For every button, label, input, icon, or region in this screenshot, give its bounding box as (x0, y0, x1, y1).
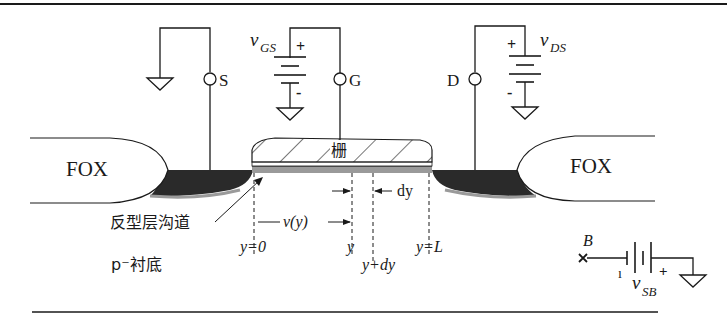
gate-terminal: + - v GS G (250, 28, 361, 145)
ground-icon (680, 275, 706, 287)
terminal-node-icon (334, 73, 346, 85)
fox-right-label: FOX (570, 154, 612, 178)
mosfet-diagram: S + - v GS G + - v DS D (0, 0, 727, 327)
y0-label: y=0 (238, 238, 266, 256)
vy-label: v(y) (283, 213, 308, 231)
channel-label: 反型层沟道 (110, 213, 190, 232)
terminal-node-icon (469, 73, 481, 85)
fox-left: FOX (30, 138, 168, 203)
vsb-symbol: v (632, 272, 641, 293)
terminal-node-icon (204, 73, 216, 85)
ground-icon (277, 108, 303, 120)
inversion-channel (252, 166, 432, 173)
gate-region-label: 栅 (331, 141, 347, 160)
vsb-subscript: SB (642, 284, 657, 299)
y-label: y (345, 238, 355, 256)
drain-label: D (447, 71, 459, 90)
body-terminal: B ı + v SB (579, 232, 706, 299)
ground-icon (512, 107, 538, 119)
vds-subscript: DS (549, 40, 566, 55)
fox-right: FOX (517, 136, 655, 201)
source-label: S (219, 71, 228, 90)
vds-minus: - (507, 84, 512, 101)
vgs-subscript: GS (260, 40, 276, 55)
vgs-plus: + (296, 38, 305, 55)
vgs-minus: - (296, 84, 301, 101)
vds-plus: + (507, 36, 516, 53)
yL-label: y=L (414, 238, 443, 256)
gate-label: G (349, 71, 361, 90)
substrate-label: p⁻衬底 (111, 255, 162, 274)
vsb-plus: + (659, 263, 668, 279)
dy-label: dy (397, 182, 413, 200)
fox-left-label: FOX (66, 157, 108, 181)
ground-icon (147, 78, 173, 90)
ydy-label: y+dy (360, 256, 396, 274)
vds-symbol: v (540, 29, 549, 50)
source-terminal: S (147, 28, 228, 170)
body-cross-icon (579, 254, 587, 262)
vgs-symbol: v (250, 29, 259, 50)
vsb-minus: ı (618, 266, 622, 281)
body-label: B (583, 232, 593, 249)
